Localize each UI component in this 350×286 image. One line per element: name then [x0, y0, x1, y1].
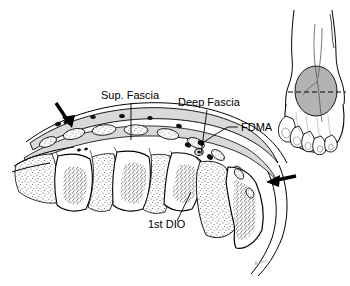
foot-cross-section-illustration: Sup. Fascia Deep Fascia FDMA 1st DIO K. …: [0, 0, 350, 286]
label-sup-fascia: Sup. Fascia: [101, 89, 160, 101]
bone-marrow: [63, 167, 87, 205]
label-deep-fascia: Deep Fascia: [178, 96, 241, 108]
label-first-dio: 1st DIO: [148, 218, 186, 230]
label-fdma: FDMA: [241, 121, 273, 133]
anatomical-figure: Sup. Fascia Deep Fascia FDMA 1st DIO K. …: [0, 0, 350, 286]
